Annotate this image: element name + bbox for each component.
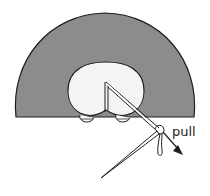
- sewing-diagram: pull: [0, 0, 210, 196]
- needle: [101, 131, 159, 178]
- pull-label: pull: [172, 124, 196, 139]
